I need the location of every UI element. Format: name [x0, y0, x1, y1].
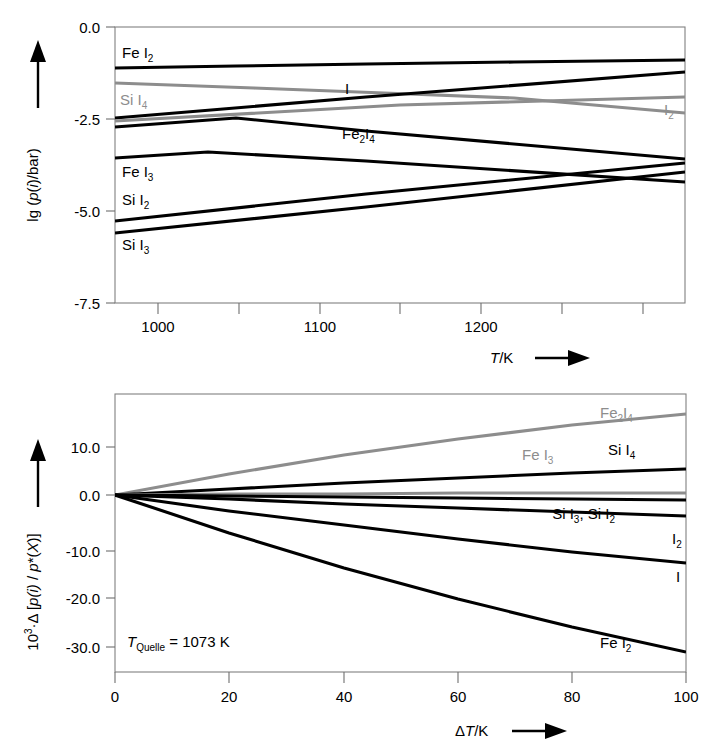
top-label-fei2: Fe I2 — [122, 44, 154, 64]
top-plot-frame — [115, 27, 685, 303]
bottom-xtick-label-100: 100 — [673, 688, 698, 705]
top-label-sii3: Si I3 — [122, 236, 150, 256]
top-y-axis-arrow — [30, 40, 46, 108]
top-ytick-label-3: -7.5 — [74, 295, 100, 312]
top-ytick-label-0: 0.0 — [79, 19, 100, 36]
curve-fei3 — [115, 152, 685, 182]
top-ytick-label-2: -5.0 — [74, 203, 100, 220]
bottom-label-i2: I2 — [672, 530, 682, 550]
top-x-ticks — [158, 303, 643, 314]
curve-fei2 — [115, 60, 685, 68]
top-label-fei3: Fe I3 — [122, 163, 154, 183]
top-xtick-label-1100: 1100 — [304, 318, 336, 335]
bottom-xtick-label-80: 80 — [564, 688, 581, 705]
bottom-ytick-label-2: -10.0 — [66, 543, 100, 560]
bottom-chart-panel: 10.0 0.0 -10.0 -20.0 -30.0 0 20 40 60 80… — [0, 374, 714, 748]
bottom-x-axis-title: ΔT/K — [455, 722, 488, 739]
curve-i — [115, 72, 685, 118]
curve-i2 — [115, 97, 685, 121]
top-xtick-label-1000: 1000 — [141, 318, 174, 335]
bottom-ytick-label-4: -30.0 — [66, 639, 100, 656]
bottom-label-sii3-sii2: Si I3, Si I2 — [552, 505, 615, 525]
bottom-x-axis-arrow — [512, 723, 567, 739]
top-xtick-label-1200: 1200 — [464, 318, 497, 335]
top-label-fe2i4: Fe2I4 — [342, 125, 375, 145]
top-y-ticks — [106, 27, 115, 303]
top-label-i: I — [345, 80, 349, 97]
top-ytick-label-1: -2.5 — [74, 111, 100, 128]
bottom-ytick-label-0: 10.0 — [71, 439, 100, 456]
top-label-sii4: Si I4 — [120, 91, 148, 111]
top-label-i2: I2 — [664, 101, 674, 121]
bottom-label-sii4: Si I4 — [608, 441, 636, 461]
top-x-axis-title: T/K — [490, 349, 513, 366]
bottom-label-fei3: Fe I3 — [522, 446, 554, 466]
bottom-annotation-tquelle: TQuelle = 1073 K — [127, 633, 230, 653]
top-chart-svg: 0.0 -2.5 -5.0 -7.5 1000 1100 1200 lg (p(… — [0, 0, 714, 374]
figure-container: 0.0 -2.5 -5.0 -7.5 1000 1100 1200 lg (p(… — [0, 0, 714, 748]
bottom-ytick-label-3: -20.0 — [66, 590, 100, 607]
curve-sii2 — [115, 163, 685, 221]
bottom-y-axis-arrow — [30, 439, 46, 507]
curve-sii3 — [115, 172, 685, 233]
bottom-xtick-label-40: 40 — [336, 688, 353, 705]
top-curves — [115, 60, 685, 233]
bottom-y-ticks — [106, 447, 115, 647]
top-label-sii2: Si I2 — [122, 191, 150, 211]
top-x-axis-arrow — [535, 350, 590, 366]
bottom-x-ticks — [115, 672, 686, 683]
top-y-axis-title: lg (p(i)/bar) — [24, 148, 41, 221]
bottom-ytick-label-1: 0.0 — [79, 487, 100, 504]
bottom-xtick-label-60: 60 — [450, 688, 467, 705]
bottom-xtick-label-20: 20 — [221, 688, 238, 705]
curve-fe2i4 — [115, 414, 686, 495]
bottom-curves — [115, 414, 686, 652]
bottom-xtick-label-0: 0 — [111, 688, 119, 705]
bottom-chart-svg: 10.0 0.0 -10.0 -20.0 -30.0 0 20 40 60 80… — [0, 374, 714, 748]
bottom-y-axis-title: 103·Δ [p(i) / p*(X)] — [23, 533, 41, 650]
bottom-label-fei2: Fe I2 — [600, 634, 632, 654]
top-chart-panel: 0.0 -2.5 -5.0 -7.5 1000 1100 1200 lg (p(… — [0, 0, 714, 374]
bottom-label-i: I — [676, 568, 680, 585]
curve-sii4 — [115, 469, 686, 495]
